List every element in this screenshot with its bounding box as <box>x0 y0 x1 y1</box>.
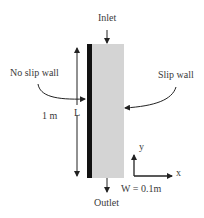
length-value-label: 1 m <box>42 111 57 121</box>
axis-y-label: y <box>139 142 144 152</box>
slip-wall-leader-icon <box>125 87 176 108</box>
no-slip-wall-leader-icon <box>38 84 85 99</box>
channel-domain <box>87 44 124 178</box>
channel-diagram <box>0 0 204 218</box>
length-symbol-label: L <box>74 108 80 118</box>
axis-x-label: x <box>176 168 181 178</box>
width-label: W = 0.1m <box>121 184 161 194</box>
no-slip-wall-label: No slip wall <box>10 68 59 78</box>
inlet-label: Inlet <box>98 13 116 23</box>
slip-wall-label: Slip wall <box>158 70 194 80</box>
no-slip-wall-bar <box>87 44 92 178</box>
outlet-label: Outlet <box>94 198 119 208</box>
